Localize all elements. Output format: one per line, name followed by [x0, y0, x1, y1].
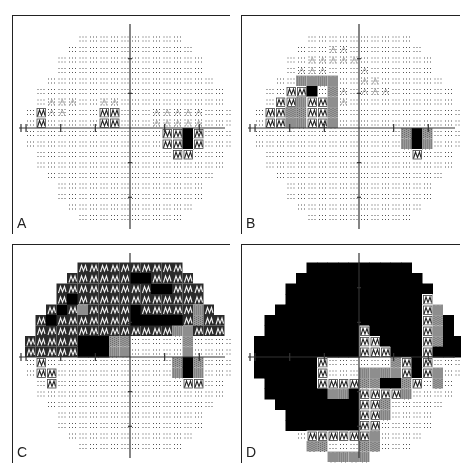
visual-field-map-d: [242, 245, 461, 464]
visual-field-map-c: [13, 245, 231, 464]
visual-field-panel-d: D: [241, 244, 460, 463]
visual-field-panel-a: A: [12, 15, 230, 234]
visual-field-map-a: [13, 16, 231, 235]
panel-label-b: B: [246, 215, 255, 231]
panel-label-d: D: [246, 444, 256, 460]
visual-field-panel-b: B: [241, 15, 460, 234]
visual-field-panel-c: C: [12, 244, 230, 463]
panel-label-a: A: [17, 215, 26, 231]
panel-label-c: C: [17, 444, 27, 460]
visual-field-map-b: [242, 16, 461, 235]
